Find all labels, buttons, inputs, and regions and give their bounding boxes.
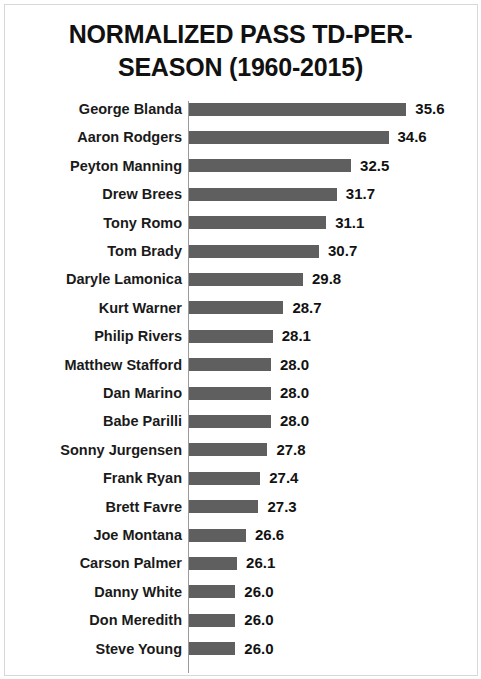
bar-category-label: Don Meredith (4, 610, 182, 630)
chart-container: NORMALIZED PASS TD-PER- SEASON (1960-201… (0, 0, 481, 679)
bar (189, 387, 271, 400)
bar-value-label: 28.0 (280, 383, 309, 403)
bar-value-label: 26.0 (244, 582, 273, 602)
bar-track (189, 557, 237, 570)
bar-row: Joe Montana26.6 (0, 525, 481, 553)
bar (189, 472, 260, 485)
bar (189, 443, 267, 456)
bar (189, 301, 283, 314)
bar-category-label: Dan Marino (4, 383, 182, 403)
bar-category-label: Sonny Jurgensen (4, 440, 182, 460)
bar-track (189, 415, 271, 428)
bar (189, 131, 389, 144)
bar-category-label: Daryle Lamonica (4, 269, 182, 289)
plot-area: George Blanda35.6Aaron Rodgers34.6Peyton… (0, 99, 481, 675)
bar-row: Frank Ryan27.4 (0, 468, 481, 496)
bar-row: George Blanda35.6 (0, 99, 481, 127)
bar-track (189, 387, 271, 400)
bar-track (189, 358, 271, 371)
bar-value-label: 26.0 (244, 639, 273, 659)
bar-category-label: Danny White (4, 582, 182, 602)
bar-row: Drew Brees31.7 (0, 184, 481, 212)
bar-category-label: Peyton Manning (4, 156, 182, 176)
bar-row: Carson Palmer26.1 (0, 553, 481, 581)
bar-value-label: 31.1 (335, 213, 364, 233)
bar-track (189, 500, 258, 513)
bar-row: Matthew Stafford28.0 (0, 355, 481, 383)
bar-category-label: Brett Favre (4, 497, 182, 517)
bar-category-label: Drew Brees (4, 184, 182, 204)
bar (189, 159, 351, 172)
bar-value-label: 27.4 (269, 468, 298, 488)
bar-track (189, 103, 406, 116)
chart-title-line-2: SEASON (1960-2015) (18, 51, 463, 84)
bar-category-label: Babe Parilli (4, 411, 182, 431)
bar (189, 245, 319, 258)
bar-category-label: Frank Ryan (4, 468, 182, 488)
bar-row: Sonny Jurgensen27.8 (0, 440, 481, 468)
bar-category-label: Joe Montana (4, 525, 182, 545)
bar-track (189, 301, 283, 314)
chart-title: NORMALIZED PASS TD-PER- SEASON (1960-201… (18, 18, 463, 84)
bar-track (189, 472, 260, 485)
bar-value-label: 28.1 (282, 326, 311, 346)
bar-value-label: 28.0 (280, 411, 309, 431)
bar (189, 415, 271, 428)
bar-row: Danny White26.0 (0, 582, 481, 610)
bar-track (189, 443, 267, 456)
bar-value-label: 26.6 (255, 525, 284, 545)
bar-track (189, 529, 246, 542)
bar-row: Tony Romo31.1 (0, 213, 481, 241)
bar-category-label: Aaron Rodgers (4, 127, 182, 147)
bar-value-label: 28.0 (280, 355, 309, 375)
bar-row: Brett Favre27.3 (0, 497, 481, 525)
bar-track (189, 245, 319, 258)
bar (189, 614, 235, 627)
bar (189, 500, 258, 513)
bar-track (189, 131, 389, 144)
bar (189, 642, 235, 655)
bar-track (189, 273, 303, 286)
bar (189, 216, 326, 229)
bar-track (189, 585, 235, 598)
bar (189, 358, 271, 371)
bar-track (189, 642, 235, 655)
bar-row: Dan Marino28.0 (0, 383, 481, 411)
bar-row: Don Meredith26.0 (0, 610, 481, 638)
bar-value-label: 26.1 (246, 553, 275, 573)
bar-row: Philip Rivers28.1 (0, 326, 481, 354)
bar-row: Daryle Lamonica29.8 (0, 269, 481, 297)
bar-value-label: 31.7 (346, 184, 375, 204)
page-border-top (4, 4, 478, 5)
bar (189, 330, 273, 343)
bar-track (189, 159, 351, 172)
bar-track (189, 216, 326, 229)
bar-value-label: 27.8 (276, 440, 305, 460)
bar (189, 188, 337, 201)
bar-track (189, 188, 337, 201)
bar-value-label: 34.6 (398, 127, 427, 147)
bar-category-label: Kurt Warner (4, 298, 182, 318)
bar-track (189, 330, 273, 343)
bar-value-label: 35.6 (415, 99, 444, 119)
bar-category-label: George Blanda (4, 99, 182, 119)
bar-row: Peyton Manning32.5 (0, 156, 481, 184)
bar-category-label: Carson Palmer (4, 553, 182, 573)
bar (189, 103, 406, 116)
bar-category-label: Tony Romo (4, 213, 182, 233)
bar-row: Babe Parilli28.0 (0, 411, 481, 439)
bar (189, 557, 237, 570)
bar-track (189, 614, 235, 627)
bar-row: Kurt Warner28.7 (0, 298, 481, 326)
bar-value-label: 26.0 (244, 610, 273, 630)
bar-category-label: Steve Young (4, 639, 182, 659)
bar (189, 585, 235, 598)
chart-title-line-1: NORMALIZED PASS TD-PER- (18, 18, 463, 51)
bar-value-label: 32.5 (360, 156, 389, 176)
bar-value-label: 30.7 (328, 241, 357, 261)
bar-row: Aaron Rodgers34.6 (0, 127, 481, 155)
bar (189, 529, 246, 542)
bar-category-label: Philip Rivers (4, 326, 182, 346)
bar-value-label: 29.8 (312, 269, 341, 289)
bar-category-label: Matthew Stafford (4, 355, 182, 375)
